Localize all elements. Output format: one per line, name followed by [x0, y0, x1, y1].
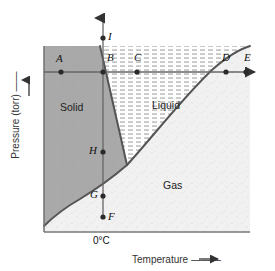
- point-c[interactable]: [134, 69, 139, 74]
- region-label-liquid: Liquid: [152, 100, 180, 111]
- point-label-c: C: [134, 52, 141, 63]
- region-label-gas: Gas: [163, 180, 182, 191]
- point-a[interactable]: [58, 69, 63, 74]
- point-g[interactable]: [100, 193, 105, 198]
- point-label-e: E: [244, 52, 251, 63]
- x-axis-label: Temperature ———: [132, 255, 221, 265]
- point-f[interactable]: [100, 214, 105, 219]
- point-label-h: H: [89, 145, 97, 156]
- point-label-a: A: [56, 53, 63, 64]
- point-label-b: B: [107, 52, 114, 63]
- point-label-d: D: [222, 52, 230, 63]
- plot-background: [44, 46, 250, 232]
- point-b[interactable]: [100, 69, 105, 74]
- phase-diagram-canvas: [0, 0, 275, 271]
- tick-label-zero-celsius: 0°C: [93, 236, 110, 246]
- phase-diagram: A B C D E F G H I Solid Liquid Gas 0°C P…: [0, 0, 275, 271]
- point-label-g: G: [90, 189, 98, 200]
- region-label-solid: Solid: [60, 102, 83, 113]
- point-i[interactable]: [100, 35, 105, 40]
- point-e[interactable]: [243, 69, 248, 74]
- point-label-f: F: [108, 211, 115, 222]
- point-label-i: I: [108, 31, 112, 42]
- point-h[interactable]: [100, 149, 105, 154]
- point-d[interactable]: [223, 69, 228, 74]
- y-axis-label: Pressure (torr) ——: [11, 60, 21, 170]
